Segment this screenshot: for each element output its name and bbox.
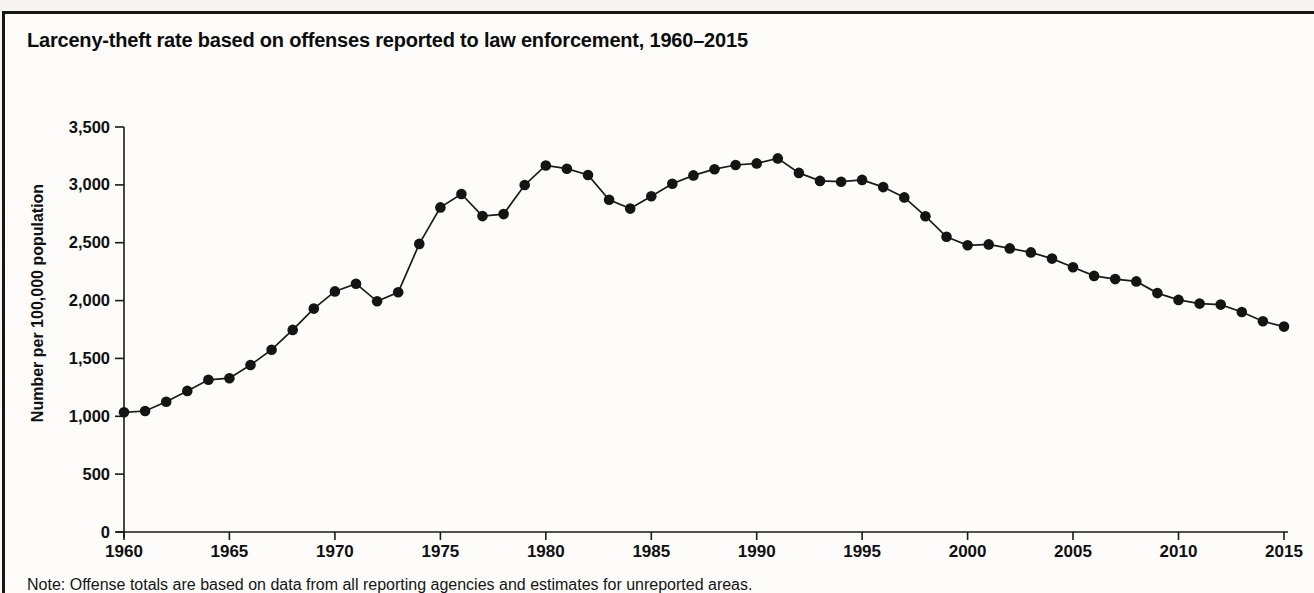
data-point [1089,271,1100,282]
data-point [1047,253,1058,264]
data-point [1194,298,1205,309]
data-point [477,211,488,222]
data-point [604,194,615,205]
y-tick-label: 2,500 [69,233,110,251]
data-point [667,178,678,189]
scanned-page-background: Larceny-theft rate based on offenses rep… [0,0,1314,593]
data-point [857,175,868,186]
data-point [646,191,657,202]
data-point [1068,262,1079,273]
data-point [878,182,889,193]
note-text: Note: Offense totals are based on data f… [27,576,752,593]
data-point [372,296,383,307]
data-point [1173,295,1184,306]
data-point [583,170,594,181]
y-tick-label: 3,500 [69,118,110,136]
data-point [836,176,847,187]
x-tick-label: 2000 [949,542,987,561]
data-point [773,153,784,164]
y-tick-label: 0 [101,523,110,541]
data-point [161,397,172,408]
data-point [119,407,130,418]
data-point [562,163,573,174]
data-point [1026,247,1037,258]
data-point [941,232,952,243]
x-tick-label: 1985 [632,542,670,561]
data-point [1131,276,1142,287]
data-point [435,202,446,213]
data-point [498,209,509,220]
data-point [730,160,741,171]
data-point [182,386,193,397]
data-point [266,344,277,355]
data-point [414,239,425,250]
data-point [920,211,931,222]
x-tick-label: 1970 [316,542,354,561]
data-point [351,278,362,289]
data-point [245,360,256,371]
x-tick-label: 1975 [421,542,459,561]
data-point [330,286,341,297]
data-point [541,160,552,171]
data-point [962,240,973,251]
data-point [1258,316,1269,327]
data-point [688,170,699,181]
x-tick-label: 2010 [1160,542,1198,561]
x-tick-label: 1965 [210,542,248,561]
data-point [519,180,530,191]
data-point [751,158,762,169]
data-point [709,164,720,175]
data-point [309,303,320,314]
data-point [224,373,235,384]
data-point [456,189,467,200]
y-tick-label: 500 [82,465,110,483]
data-point [794,168,805,179]
y-tick-label: 2,000 [69,291,110,309]
data-point [287,325,298,336]
x-tick-label: 2005 [1054,542,1092,561]
x-tick-label: 1995 [843,542,881,561]
series-line [124,158,1284,412]
data-point [203,375,214,386]
y-tick-label: 1,500 [69,349,110,367]
data-point [1152,288,1163,299]
data-point [1215,299,1226,310]
y-tick-label: 1,000 [69,407,110,425]
x-tick-label: 2015 [1265,542,1303,561]
data-point [1005,243,1016,254]
data-point [393,287,404,298]
data-point [140,406,151,417]
y-tick-label: 3,000 [69,175,110,193]
data-point [1279,321,1290,332]
x-tick-label: 1990 [738,542,776,561]
data-point [625,203,636,214]
x-tick-label: 1980 [527,542,565,561]
data-point [899,192,910,203]
data-point [1110,274,1121,285]
data-point [1237,307,1248,318]
x-tick-label: 1960 [105,542,143,561]
chart-canvas: 05001,0001,5002,0002,5003,0003,500196019… [0,0,1314,593]
data-point [983,239,994,250]
data-point [815,176,826,187]
